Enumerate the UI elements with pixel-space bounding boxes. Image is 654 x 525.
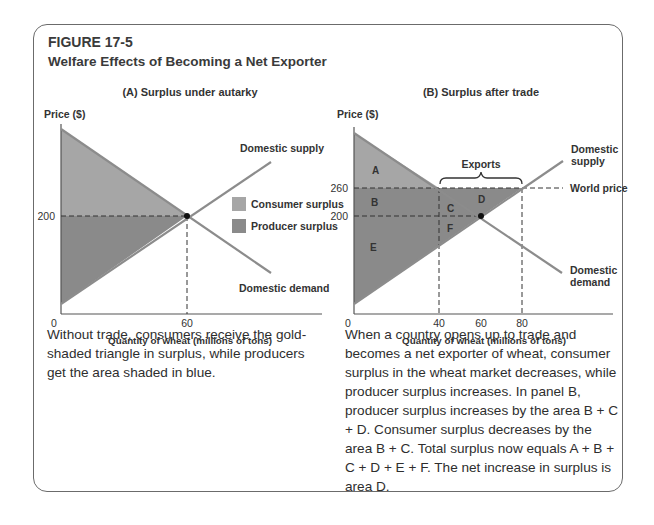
panel-a-y-tick-200: 200 [37, 210, 55, 222]
area-label-b: B [371, 197, 378, 208]
area-label-d: D [478, 194, 485, 205]
legend-swatch-consumer-surplus [232, 197, 246, 211]
exports-label: Exports [461, 158, 500, 170]
legend-label-producer-surplus: Producer surplus [251, 220, 338, 232]
world-price-label: World price [570, 182, 628, 194]
legend-label-consumer-surplus: Consumer surplus [251, 198, 344, 210]
panel-a: (A) Surplus under autarky Price ($) 200 … [37, 86, 343, 346]
panel-b-equilibrium-point [478, 213, 484, 219]
panel-a-demand-label: Domestic demand [239, 282, 329, 294]
area-label-e: E [370, 242, 377, 253]
panel-a-equilibrium-point [184, 213, 190, 219]
area-label-f: F [447, 223, 453, 234]
panel-b: (B) Surplus after trade Price ($) Export… [330, 86, 627, 346]
panel-b-y-axis-label: Price ($) [337, 108, 378, 120]
panel-b-supply-label-line1: Domestic [571, 143, 618, 155]
panel-b-title: (B) Surplus after trade [423, 86, 539, 98]
panel-b-demand-label-line2: demand [570, 276, 610, 288]
legend-swatch-producer-surplus [232, 219, 246, 233]
panel-a-caption: Without trade, consumers receive the gol… [47, 325, 327, 382]
panel-b-caption: When a country opens up to trade and bec… [345, 325, 620, 496]
exports-brace [440, 172, 522, 184]
panel-a-title: (A) Surplus under autarky [122, 86, 258, 98]
panel-b-supply-label-line2: supply [571, 155, 605, 167]
area-label-c: C [447, 203, 454, 214]
panel-b-y-tick-200: 200 [330, 210, 348, 222]
panel-b-demand-label-line1: Domestic [570, 264, 617, 276]
area-label-a: A [372, 165, 379, 176]
panel-a-supply-label: Domestic supply [240, 142, 324, 154]
panel-a-y-axis-label: Price ($) [44, 108, 85, 120]
panel-b-y-tick-260: 260 [330, 182, 348, 194]
